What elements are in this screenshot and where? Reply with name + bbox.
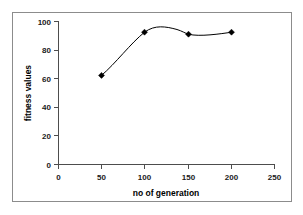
y-axis-ticks: [54, 22, 58, 165]
y-tick-label-100: 100: [38, 18, 52, 27]
x-axis-tick-labels: 0 50 100 150 200 250: [56, 173, 281, 182]
y-axis-title: fitness values: [23, 65, 33, 121]
y-axis-tick-labels: 0 20 40 60 80 100: [38, 18, 52, 170]
x-axis-ticks: [59, 165, 275, 170]
x-tick-label-50: 50: [97, 173, 106, 182]
series-fitness-line: [102, 27, 232, 76]
y-tick-label-60: 60: [42, 75, 51, 84]
y-tick-label-40: 40: [42, 103, 51, 112]
data-point-200: [229, 29, 235, 35]
line-chart: 0 20 40 60 80 100 0 50 100 150 200 250 n…: [0, 0, 303, 215]
x-tick-label-0: 0: [56, 173, 61, 182]
chart-figure: 0 20 40 60 80 100 0 50 100 150 200 250 n…: [0, 0, 303, 215]
x-tick-label-100: 100: [138, 173, 152, 182]
x-tick-label-150: 150: [182, 173, 196, 182]
x-axis-title: no of generation: [133, 188, 200, 198]
x-tick-label-250: 250: [268, 173, 282, 182]
series-fitness-markers: [99, 29, 235, 78]
data-point-150: [186, 31, 192, 37]
y-tick-label-80: 80: [42, 46, 51, 55]
x-tick-label-200: 200: [225, 173, 239, 182]
y-tick-label-20: 20: [42, 132, 51, 141]
y-tick-label-0: 0: [47, 161, 52, 170]
